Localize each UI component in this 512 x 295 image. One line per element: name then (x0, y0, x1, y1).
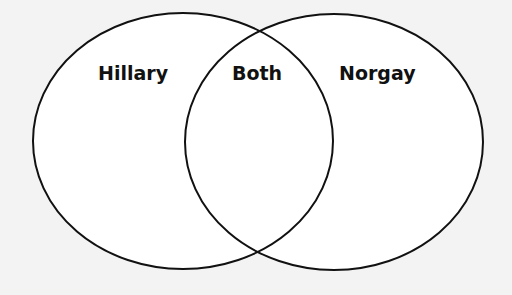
norgay-label: Norgay (339, 62, 416, 84)
hillary-label: Hillary (98, 62, 169, 84)
both-label: Both (232, 62, 282, 84)
norgay-circle-fill (185, 14, 483, 270)
venn-diagram: Hillary Both Norgay (0, 0, 512, 295)
